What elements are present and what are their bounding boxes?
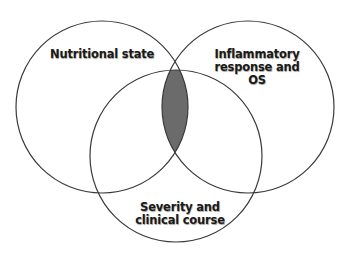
label-inflammatory-response: Inflammatory response and OS [212,48,302,87]
label-line: clinical course [130,214,230,227]
label-nutritional-state: Nutritional state [50,48,154,61]
label-line: Nutritional state [50,48,154,61]
label-line: OS [212,74,302,87]
label-severity-clinical-course: Severity and clinical course [130,201,230,227]
